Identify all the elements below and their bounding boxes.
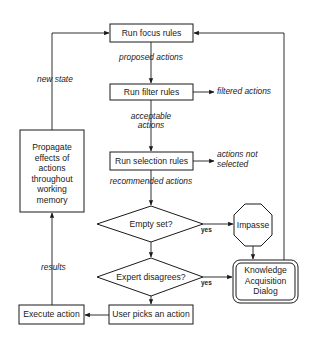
node-run-focus-rules: Run focus rules	[110, 24, 193, 42]
propagate-line-1: Propagate	[32, 142, 72, 152]
label-yes-expert: yes	[201, 279, 212, 287]
label-recommended-actions: recommended actions	[110, 176, 193, 186]
label-not-selected-2: selected	[217, 159, 249, 169]
node-execute-action: Execute action	[19, 305, 84, 324]
filter-label: Run filter rules	[124, 87, 179, 97]
label-new-state: new state	[37, 74, 73, 84]
selection-label: Run selection rules	[115, 156, 188, 166]
propagate-line-3: actions	[38, 163, 65, 173]
node-expert-disagrees-decision: Expert disagrees?	[97, 258, 203, 296]
node-impasse: Impasse	[234, 204, 272, 246]
ka-line-3: Dialog	[253, 286, 278, 296]
label-filtered-actions: filtered actions	[217, 86, 272, 96]
expert-label: Expert disagrees?	[116, 272, 185, 282]
label-acceptable-1: acceptable	[131, 111, 172, 121]
propagate-line-5: working	[36, 184, 67, 194]
propagate-line-6: memory	[36, 195, 68, 205]
flowchart: Run focus rules Run filter rules Run sel…	[0, 0, 312, 344]
propagate-line-2: effects of	[35, 153, 70, 163]
node-empty-set-decision: Empty set?	[97, 206, 203, 242]
ka-line-2: Acquisition	[245, 276, 287, 286]
label-results: results	[41, 262, 66, 272]
label-not-selected-1: actions not	[217, 149, 258, 159]
propagate-line-4: throughout	[31, 174, 73, 184]
node-user-picks-action: User picks an action	[109, 305, 193, 324]
node-propagate-effects: Propagate effects of actions throughout …	[20, 130, 84, 212]
impasse-label: Impasse	[237, 220, 270, 230]
empty-set-label: Empty set?	[130, 219, 173, 229]
execute-label: Execute action	[23, 309, 80, 319]
node-run-filter-rules: Run filter rules	[110, 84, 193, 100]
user-picks-label: User picks an action	[112, 309, 190, 319]
ka-line-1: Knowledge	[244, 265, 287, 275]
label-acceptable-2: actions	[138, 120, 165, 130]
focus-label: Run focus rules	[122, 28, 182, 38]
label-proposed-actions: proposed actions	[118, 52, 184, 62]
node-knowledge-acquisition-dialog: Knowledge Acquisition Dialog	[233, 260, 298, 303]
node-run-selection-rules: Run selection rules	[110, 152, 193, 170]
label-yes-empty: yes	[201, 226, 212, 234]
